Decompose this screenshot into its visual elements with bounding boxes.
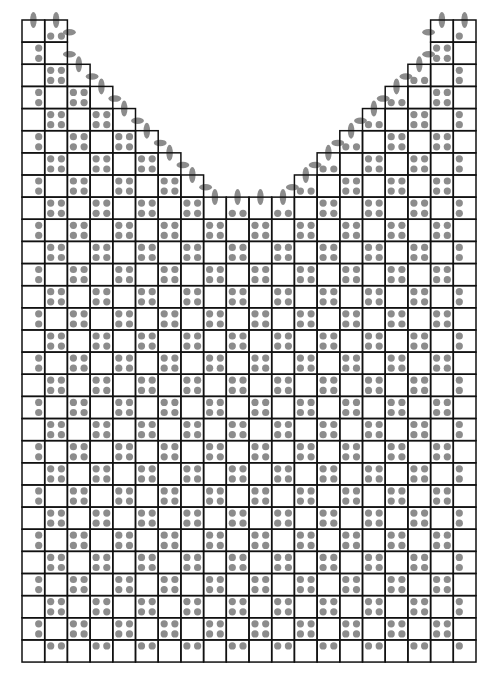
stitch-dot (229, 298, 236, 305)
stitch-dot (171, 586, 178, 593)
stitch-dot (342, 620, 349, 627)
stitch-dot (353, 576, 360, 583)
grid-cell (22, 419, 45, 441)
grid-cell (158, 574, 181, 596)
stitch-dot (330, 288, 337, 295)
stitch-dot (285, 642, 292, 649)
stitch-dot (183, 554, 190, 561)
stitch-dot (35, 399, 42, 406)
grid-cell (272, 441, 295, 463)
stitch-dot (239, 244, 246, 251)
stitch-dot (456, 608, 463, 615)
stitch-dot (297, 576, 304, 583)
stitch-dot (171, 620, 178, 627)
stitch-dot (444, 586, 451, 593)
stitch-dot (81, 143, 88, 150)
stitch-dot (444, 222, 451, 229)
grid-cell (317, 618, 340, 640)
stitch-dot (229, 332, 236, 339)
grid-cell (272, 463, 295, 485)
stitch-dot (35, 45, 42, 52)
grid-cell (204, 507, 227, 529)
stitch-dot (138, 598, 145, 605)
grid-cell (408, 86, 431, 108)
grid-cell (22, 618, 45, 640)
grid-cell (90, 153, 113, 175)
grid-cell (340, 485, 363, 507)
stitch-dot (365, 155, 372, 162)
stitch-dot (433, 89, 440, 96)
stitch-dot (149, 465, 156, 472)
stitch-dot (410, 121, 417, 128)
grid-cell (45, 86, 68, 108)
grid-cell (249, 529, 272, 551)
grid-cell (181, 441, 204, 463)
stitch-dot (194, 387, 201, 394)
stitch-dot (376, 254, 383, 261)
stitch-dot (183, 387, 190, 394)
grid-cell (272, 241, 295, 263)
grid-cell (158, 286, 181, 308)
grid-cell (158, 507, 181, 529)
grid-cell (181, 419, 204, 441)
stitch-dot (103, 165, 110, 172)
stitch-dot (456, 431, 463, 438)
stitch-dot (126, 232, 133, 239)
grid-cell (22, 42, 45, 64)
stitch-dot (183, 598, 190, 605)
grid-cell (317, 529, 340, 551)
grid-cell (431, 352, 454, 374)
grid-cell (317, 396, 340, 418)
grid-cell (385, 396, 408, 418)
stitch-dot (103, 332, 110, 339)
grid-cell (431, 419, 454, 441)
stitch-dot (93, 165, 100, 172)
grid-cell (408, 529, 431, 551)
stitch-dot (456, 298, 463, 305)
grid-cell (113, 286, 136, 308)
grid-cell (385, 330, 408, 352)
stitch-dot (93, 377, 100, 384)
stitch-dot (251, 532, 258, 539)
stitch-dot (433, 532, 440, 539)
grid-cell (317, 596, 340, 618)
grid-cell (385, 264, 408, 286)
grid-cell (363, 618, 386, 640)
stitch-dot (103, 210, 110, 217)
stitch-dot (365, 608, 372, 615)
stitch-dot (433, 222, 440, 229)
grid-cell (385, 419, 408, 441)
stitch-dot (285, 431, 292, 438)
grid-cell (340, 396, 363, 418)
stitch-dot (161, 177, 168, 184)
stitch-dot (376, 520, 383, 527)
grid-cell (294, 441, 317, 463)
stitch-dot (456, 343, 463, 350)
stitch-dot (149, 288, 156, 295)
stitch-dot (444, 177, 451, 184)
stitch-dot (330, 509, 337, 516)
stitch-dot (342, 409, 349, 416)
stitch-dot (376, 332, 383, 339)
stitch-dot (194, 421, 201, 428)
stitch-dot (398, 177, 405, 184)
stitch-dot (115, 409, 122, 416)
stitch-dot (398, 99, 405, 106)
stitch-dot (456, 67, 463, 74)
grid-cell (453, 551, 476, 573)
grid-cell (113, 241, 136, 263)
grid-cell (181, 396, 204, 418)
stitch-dot (217, 443, 224, 450)
grid-cell (385, 197, 408, 219)
grid-cell (431, 374, 454, 396)
stitch-dot (93, 475, 100, 482)
grid-cell (431, 197, 454, 219)
stitch-dot (410, 343, 417, 350)
stitch-dot (58, 343, 65, 350)
stitch-dot (410, 200, 417, 207)
grid-cell (158, 175, 181, 197)
grid-cell (431, 574, 454, 596)
stitch-dot (376, 554, 383, 561)
stitch-dot (47, 244, 54, 251)
grid-cell (453, 485, 476, 507)
